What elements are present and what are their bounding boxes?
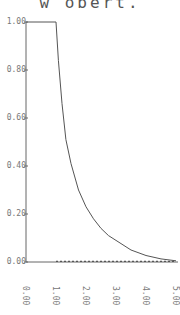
y-tick-label: 0.60 [0,114,26,122]
y-tick-label: 0.20 [0,210,26,218]
x-tick-label: 1.00 [51,286,60,305]
x-tick-label: 3.00 [111,286,120,305]
y-tick-label: 1.00 [0,18,26,26]
y-tick-label: 0.40 [0,162,26,170]
plot-area [0,0,180,315]
x-tick-label: 5.00 [171,286,180,305]
x-tick-label: 0.00 [21,286,30,305]
x-tick-label: 2.00 [81,286,90,305]
decay-curve-series [26,22,176,261]
y-tick-label: 0.00 [0,258,26,266]
y-tick-label: 0.80 [0,66,26,74]
x-tick-label: 4.00 [141,286,150,305]
